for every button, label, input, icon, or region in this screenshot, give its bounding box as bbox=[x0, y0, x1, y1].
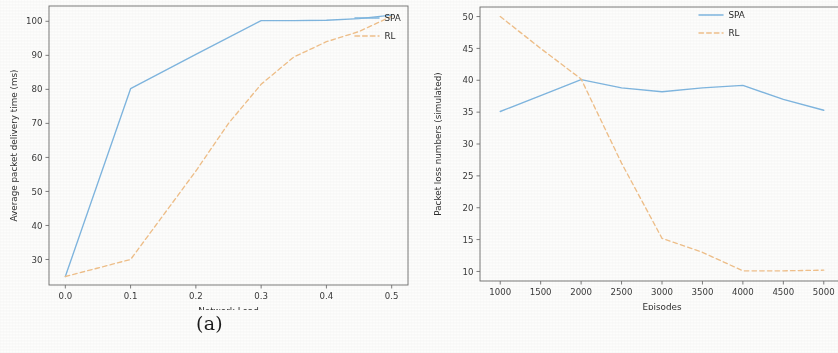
y-tick-label: 30 bbox=[463, 139, 474, 149]
x-axis-title: Network Load bbox=[198, 306, 259, 310]
x-tick-label: 0.1 bbox=[124, 291, 138, 301]
x-tick-label: 1500 bbox=[530, 287, 552, 297]
series-line-spa bbox=[500, 80, 824, 112]
series-line-rl bbox=[500, 17, 824, 271]
chart-panel-a: 0.00.10.20.30.40.530405060708090100Netwo… bbox=[0, 0, 419, 353]
plot-frame bbox=[480, 7, 838, 281]
x-tick-label: 4000 bbox=[732, 287, 754, 297]
y-tick-label: 45 bbox=[463, 44, 474, 54]
legend-label-rl: RL bbox=[385, 31, 396, 41]
y-tick-label: 25 bbox=[463, 171, 474, 181]
y-axis-title: Packet loss numbers (simulated) bbox=[433, 72, 443, 215]
chart-panel-b: 1000150020002500300035004000450050001015… bbox=[419, 0, 838, 353]
x-tick-label: 4500 bbox=[772, 287, 794, 297]
plot-frame bbox=[49, 6, 408, 285]
y-tick-label: 90 bbox=[32, 50, 43, 60]
chart-a-canvas: 0.00.10.20.30.40.530405060708090100Netwo… bbox=[0, 0, 419, 310]
y-tick-label: 100 bbox=[26, 16, 42, 26]
caption-a: (a) bbox=[0, 312, 419, 334]
series-line-spa bbox=[65, 15, 391, 276]
y-axis-title: Average packet delivery time (ms) bbox=[9, 70, 19, 222]
x-tick-label: 0.2 bbox=[189, 291, 203, 301]
x-tick-label: 3500 bbox=[692, 287, 714, 297]
y-tick-label: 50 bbox=[32, 187, 43, 197]
x-axis-title: Episodes bbox=[642, 302, 682, 310]
y-tick-label: 80 bbox=[32, 84, 43, 94]
y-tick-label: 40 bbox=[463, 75, 474, 85]
y-tick-label: 50 bbox=[463, 12, 474, 22]
x-tick-label: 0.5 bbox=[385, 291, 399, 301]
x-tick-label: 3000 bbox=[651, 287, 673, 297]
figure-two-panel-line-charts: 0.00.10.20.30.40.530405060708090100Netwo… bbox=[0, 0, 838, 353]
y-tick-label: 30 bbox=[32, 255, 43, 265]
y-tick-label: 10 bbox=[463, 267, 474, 277]
y-tick-label: 20 bbox=[463, 203, 474, 213]
x-tick-label: 2500 bbox=[611, 287, 633, 297]
y-tick-label: 35 bbox=[463, 107, 474, 117]
y-tick-label: 60 bbox=[32, 153, 43, 163]
legend-label-spa: SPA bbox=[385, 13, 401, 23]
y-tick-label: 15 bbox=[463, 235, 474, 245]
y-tick-label: 40 bbox=[32, 221, 43, 231]
legend-label-rl: RL bbox=[729, 28, 740, 38]
x-tick-label: 0.3 bbox=[254, 291, 268, 301]
x-tick-label: 0.4 bbox=[320, 291, 334, 301]
y-tick-label: 70 bbox=[32, 118, 43, 128]
x-tick-label: 2000 bbox=[570, 287, 592, 297]
x-tick-label: 0.0 bbox=[58, 291, 72, 301]
series-line-rl bbox=[65, 16, 391, 276]
x-tick-label: 1000 bbox=[489, 287, 511, 297]
chart-b-canvas: 1000150020002500300035004000450050001015… bbox=[419, 0, 838, 310]
x-tick-label: 5000 bbox=[813, 287, 835, 297]
legend-label-spa: SPA bbox=[729, 10, 745, 20]
